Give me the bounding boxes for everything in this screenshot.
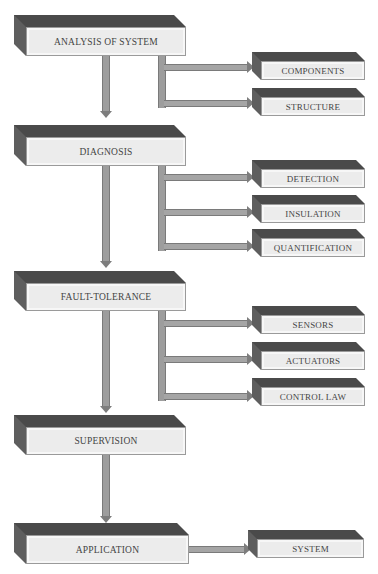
stage-supervision: SUPERVISION bbox=[14, 415, 186, 455]
box-top bbox=[252, 160, 365, 169]
child-system: SYSTEM bbox=[248, 530, 364, 558]
child-label: COMPONENTS bbox=[261, 61, 365, 80]
connector-vertical bbox=[102, 455, 110, 517]
box-top bbox=[252, 88, 365, 97]
branch-arrow bbox=[164, 174, 248, 181]
connector-vertical bbox=[102, 56, 110, 112]
child-insulation: INSULATION bbox=[252, 195, 365, 223]
branch-arrow bbox=[164, 243, 248, 250]
box-top bbox=[248, 530, 364, 539]
box-top bbox=[14, 15, 186, 27]
stage-analysis-of-system: ANALYSIS OF SYSTEM bbox=[14, 15, 186, 56]
child-sensors: SENSORS bbox=[252, 306, 365, 334]
arrow-down-icon bbox=[100, 111, 112, 118]
stage-fault-tolerance: FAULT-TOLERANCE bbox=[14, 271, 186, 311]
box-top bbox=[14, 415, 186, 427]
child-quantification: QUANTIFICATION bbox=[252, 229, 365, 257]
box-top bbox=[252, 52, 365, 61]
child-label: CONTROL LAW bbox=[261, 387, 365, 406]
child-label: STRUCTURE bbox=[261, 97, 365, 116]
box-top bbox=[252, 306, 365, 315]
arrow-down-icon bbox=[100, 516, 112, 523]
branch-arrow bbox=[164, 320, 248, 327]
arrow-down-icon bbox=[100, 261, 112, 268]
connector-vertical bbox=[102, 311, 110, 407]
box-top bbox=[252, 342, 365, 351]
branch-arrow bbox=[164, 209, 248, 216]
stage-label: SUPERVISION bbox=[26, 427, 186, 455]
child-control-law: CONTROL LAW bbox=[252, 378, 365, 406]
box-top bbox=[14, 271, 186, 283]
stage-label: DIAGNOSIS bbox=[26, 137, 186, 166]
child-label: ACTUATORS bbox=[261, 351, 365, 370]
box-top bbox=[252, 195, 365, 204]
child-label: DETECTION bbox=[261, 169, 365, 188]
child-label: INSULATION bbox=[261, 204, 365, 223]
stage-label: ANALYSIS OF SYSTEM bbox=[26, 27, 186, 56]
branch-arrow bbox=[164, 356, 248, 363]
stage-diagnosis: DIAGNOSIS bbox=[14, 125, 186, 166]
stage-label: APPLICATION bbox=[26, 535, 189, 564]
arrow-down-icon bbox=[100, 406, 112, 413]
child-detection: DETECTION bbox=[252, 160, 365, 188]
box-top bbox=[252, 229, 365, 238]
branch-arrow bbox=[164, 100, 248, 107]
stage-application: APPLICATION bbox=[14, 523, 189, 564]
box-top bbox=[14, 523, 189, 535]
branch-arrow bbox=[164, 64, 248, 71]
stage-label: FAULT-TOLERANCE bbox=[26, 283, 186, 311]
branch-arrow bbox=[189, 546, 245, 553]
child-label: SYSTEM bbox=[257, 539, 364, 558]
box-top bbox=[14, 125, 186, 137]
child-label: SENSORS bbox=[261, 315, 365, 334]
connector-vertical bbox=[102, 166, 110, 262]
child-label: QUANTIFICATION bbox=[261, 238, 365, 257]
child-structure: STRUCTURE bbox=[252, 88, 365, 116]
child-actuators: ACTUATORS bbox=[252, 342, 365, 370]
branch-arrow bbox=[164, 393, 248, 400]
box-top bbox=[252, 378, 365, 387]
child-components: COMPONENTS bbox=[252, 52, 365, 80]
